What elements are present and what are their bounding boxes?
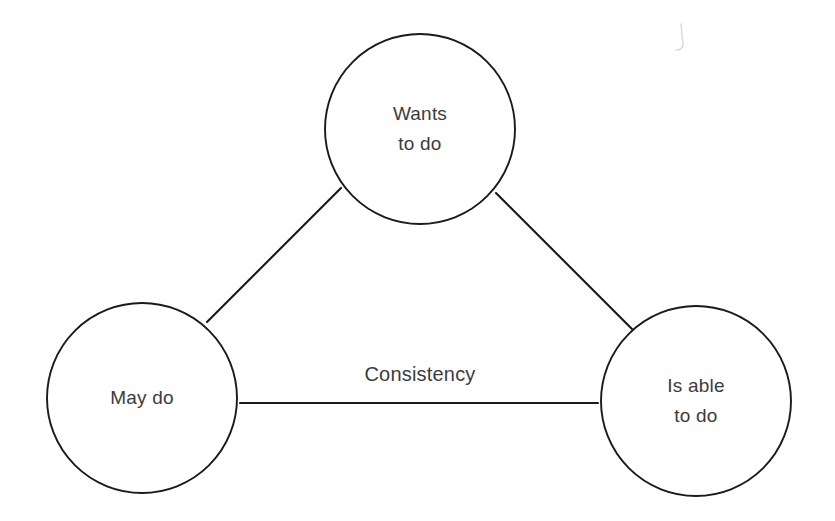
wants-to-do-label-line2: to do xyxy=(398,133,441,154)
wants-to-do-circle[interactable] xyxy=(325,34,515,224)
edge-wants-to-do-is-able-to-do xyxy=(496,193,634,331)
edge-may-do-wants-to-do xyxy=(207,188,341,322)
is-able-to-do-circle[interactable] xyxy=(601,306,791,496)
is-able-to-do-label-line1: Is able xyxy=(667,375,724,396)
wants-to-do-label-line1: Wants xyxy=(393,103,447,124)
scan-artifact-mark xyxy=(676,24,683,50)
edge-label-consistency: Consistency xyxy=(364,363,475,385)
may-do-label-line1: May do xyxy=(110,387,174,408)
diagram-canvas: Consistency Wants to do May do Is able t… xyxy=(0,0,835,521)
is-able-to-do-label-line2: to do xyxy=(674,405,717,426)
consistency-triangle-diagram: Consistency Wants to do May do Is able t… xyxy=(0,0,835,521)
